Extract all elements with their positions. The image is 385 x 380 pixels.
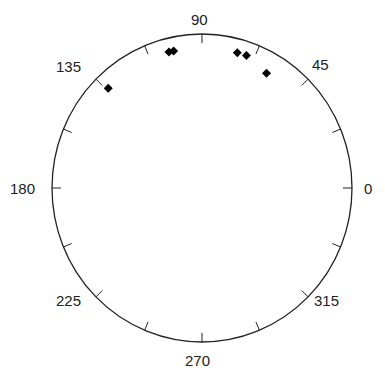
data-point-diamond xyxy=(233,48,242,57)
angle-label-315: 315 xyxy=(314,292,339,309)
angle-label-225: 225 xyxy=(56,292,81,309)
angle-label-135: 135 xyxy=(56,58,81,75)
polar-plot: 0 45 90 135 180 225 270 315 xyxy=(0,0,385,380)
data-point-diamond xyxy=(104,84,113,93)
data-point-diamond xyxy=(242,51,251,60)
tick-marks xyxy=(52,34,352,342)
angle-label-90: 90 xyxy=(191,11,208,28)
angle-label-270: 270 xyxy=(185,352,210,369)
angle-label-0: 0 xyxy=(364,180,372,197)
data-point-diamond xyxy=(262,69,271,78)
angle-label-45: 45 xyxy=(312,56,329,73)
angle-label-180: 180 xyxy=(10,180,35,197)
